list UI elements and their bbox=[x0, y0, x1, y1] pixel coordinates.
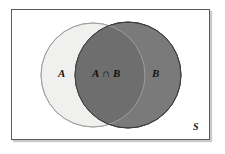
set-a-label: A bbox=[58, 68, 66, 79]
venn-diagram-figure: A A ∩ B B S bbox=[0, 0, 225, 154]
set-b-label: B bbox=[152, 68, 160, 79]
universal-set-label: S bbox=[193, 122, 199, 132]
intersection-label: A ∩ B bbox=[92, 68, 120, 79]
